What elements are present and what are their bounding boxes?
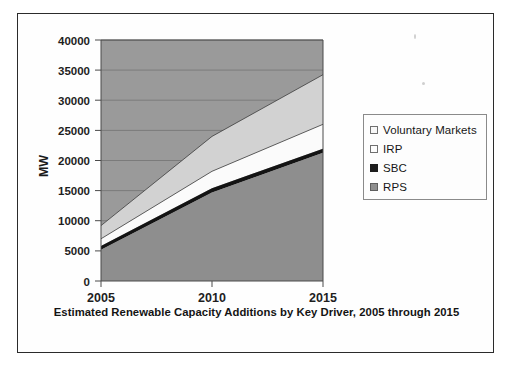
chart-caption: Estimated Renewable Capacity Additions b… [18, 306, 495, 318]
y-tick-label: 40000 [58, 35, 90, 47]
legend-swatch-rps [370, 183, 378, 191]
y-tick-label: 10000 [58, 215, 90, 227]
legend-label: SBC [383, 162, 407, 174]
legend-swatch-irp [370, 145, 378, 153]
legend-swatch-voluntary-markets [370, 126, 378, 134]
y-tick-label: 5000 [64, 245, 90, 257]
legend-item-sbc: SBC [370, 158, 480, 177]
chart-legend: Voluntary Markets IRP SBC RPS [363, 114, 487, 200]
legend-label: IRP [383, 143, 402, 155]
legend-swatch-sbc [370, 164, 378, 172]
y-tick-label: 0 [84, 276, 90, 288]
y-axis-title: MW [37, 155, 51, 177]
y-tick-label: 25000 [58, 125, 90, 137]
x-tick-label: 2010 [198, 291, 226, 305]
legend-label: Voluntary Markets [383, 124, 477, 136]
legend-item-voluntary-markets: Voluntary Markets [370, 120, 480, 139]
y-tick-label: 15000 [58, 185, 90, 197]
y-tick-label: 30000 [58, 95, 90, 107]
y-tick-label: 35000 [58, 65, 90, 77]
legend-label: RPS [383, 181, 407, 193]
y-tick-label: 20000 [58, 155, 90, 167]
y-axis-ticks [95, 40, 101, 281]
legend-item-rps: RPS [370, 177, 480, 196]
x-axis-ticks [101, 281, 323, 287]
x-tick-label: 2005 [87, 291, 115, 305]
chart-page-frame: 40000 35000 30000 25000 20000 15000 1000… [17, 13, 494, 353]
legend-item-irp: IRP [370, 139, 480, 158]
x-tick-label: 2015 [309, 291, 337, 305]
